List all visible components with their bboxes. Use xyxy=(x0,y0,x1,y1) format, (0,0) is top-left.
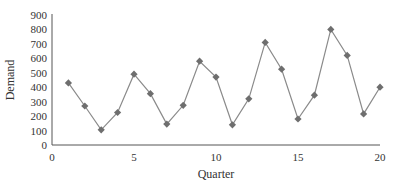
diamond-marker-icon xyxy=(327,26,334,33)
x-axis-title: Quarter xyxy=(198,167,235,181)
diamond-marker-icon xyxy=(262,39,269,46)
diamond-marker-icon xyxy=(278,66,285,73)
diamond-marker-icon xyxy=(245,95,252,102)
y-tick-label: 800 xyxy=(31,23,48,35)
y-axis-title: Demand xyxy=(3,60,17,101)
x-tick-label: 5 xyxy=(131,151,137,163)
diamond-marker-icon xyxy=(65,79,72,86)
y-tick-label: 0 xyxy=(42,139,48,151)
diamond-marker-icon xyxy=(376,84,383,91)
diamond-marker-icon xyxy=(229,121,236,128)
y-tick-label: 100 xyxy=(31,125,48,137)
y-tick-label: 400 xyxy=(31,81,48,93)
y-tick-label: 600 xyxy=(31,52,48,64)
y-tick-label: 900 xyxy=(31,9,48,21)
demand-series-line xyxy=(68,29,380,129)
x-tick-label: 15 xyxy=(293,151,305,163)
diamond-marker-icon xyxy=(311,92,318,99)
y-axis-tick-labels: 0100200300400500600700800900 xyxy=(31,9,48,151)
diamond-marker-icon xyxy=(360,110,367,117)
y-tick-label: 700 xyxy=(31,38,48,50)
diamond-marker-icon xyxy=(344,52,351,59)
x-tick-label: 20 xyxy=(375,151,387,163)
x-axis-tick-labels: 05101520 xyxy=(49,151,386,163)
y-tick-label: 500 xyxy=(31,67,48,79)
demand-line-chart: 0100200300400500600700800900 05101520 Qu… xyxy=(0,0,405,187)
y-tick-label: 300 xyxy=(31,96,48,108)
x-tick-label: 0 xyxy=(49,151,55,163)
diamond-marker-icon xyxy=(294,115,301,122)
x-tick-label: 10 xyxy=(211,151,223,163)
y-tick-label: 200 xyxy=(31,110,48,122)
